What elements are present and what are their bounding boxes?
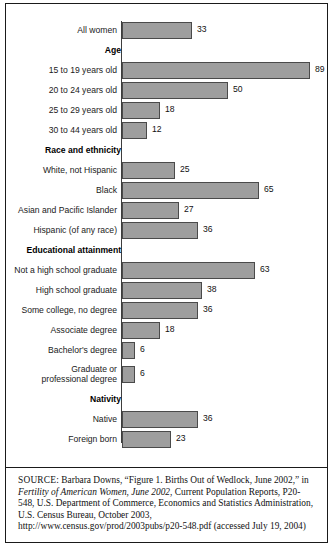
group-heading-label: Race and ethnicity — [5, 145, 121, 155]
bar — [122, 431, 171, 448]
bar-value-label: 36 — [203, 224, 213, 235]
source-label: SOURCE: — [18, 475, 59, 485]
bar — [122, 62, 310, 79]
group-heading-label: Age — [5, 45, 121, 55]
chart-group-heading: Nativity — [6, 390, 327, 410]
bar-value-label: 89 — [315, 64, 325, 75]
chart-bar-row: Black65 — [6, 181, 327, 201]
bar-value-label: 23 — [176, 433, 186, 444]
chart-bar-row: 25 to 29 years old18 — [6, 101, 327, 121]
chart-bar-row: Foreign born23 — [6, 430, 327, 450]
bar-value-label: 38 — [207, 284, 217, 295]
bar — [122, 182, 259, 199]
bar — [122, 162, 175, 179]
chart-rows: All women33Age15 to 19 years old8920 to … — [6, 21, 327, 450]
source-note: SOURCE: Barbara Downs, “Figure 1. Births… — [6, 468, 327, 542]
bar — [122, 202, 179, 219]
chart-bar-row: 15 to 19 years old89 — [6, 61, 327, 81]
chart-bar-row: Bachelor's degree6 — [6, 341, 327, 361]
bar-value-label: 63 — [260, 264, 270, 275]
bar — [122, 342, 135, 359]
bar — [122, 122, 147, 139]
chart-bar-row: Graduate or professional degree6 — [6, 361, 327, 390]
bar-value-label: 36 — [203, 304, 213, 315]
bar-value-label: 18 — [165, 104, 175, 115]
source-title-italic: Fertility of American Women, June 2002 — [18, 487, 170, 497]
bar-value-label: 12 — [152, 124, 162, 135]
bar-category-label: Some college, no degree — [5, 301, 117, 315]
bar-category-label: Hispanic (of any race) — [5, 221, 117, 235]
group-heading-label: Educational attainment — [5, 245, 121, 255]
bar-value-label: 65 — [264, 184, 274, 195]
bar-category-label: 30 to 44 years old — [5, 121, 117, 135]
chart-group-heading: Age — [6, 41, 327, 61]
bar-category-label: 15 to 19 years old — [5, 61, 117, 75]
bar — [122, 302, 198, 319]
bar-category-label: 20 to 24 years old — [5, 81, 117, 95]
chart-bar-row: White, not Hispanic25 — [6, 161, 327, 181]
chart-bar-row: Some college, no degree36 — [6, 301, 327, 321]
bar-category-label: Foreign born — [5, 430, 117, 444]
chart-bar-row: Not a high school graduate63 — [6, 261, 327, 281]
figure-frame: All women33Age15 to 19 years old8920 to … — [5, 3, 328, 543]
bar-category-label: Native — [5, 410, 117, 424]
bar-value-label: 50 — [233, 84, 243, 95]
bar — [122, 102, 160, 119]
chart-bar-row: High school graduate38 — [6, 281, 327, 301]
bar-category-label: White, not Hispanic — [5, 161, 117, 175]
chart-bar-row: 30 to 44 years old12 — [6, 121, 327, 141]
chart-bar-row: All women33 — [6, 21, 327, 41]
bar-value-label: 18 — [165, 324, 175, 335]
bar — [122, 366, 135, 383]
bar-category-label: Asian and Pacific Islander — [5, 201, 117, 215]
bar-value-label: 36 — [203, 413, 213, 424]
bar-category-label: Not a high school graduate — [5, 261, 117, 275]
chart-group-heading: Educational attainment — [6, 241, 327, 261]
chart-group-heading: Race and ethnicity — [6, 141, 327, 161]
bar — [122, 262, 255, 279]
group-heading-label: Nativity — [5, 394, 121, 404]
source-text: Barbara Downs, “Figure 1. Births Out of … — [59, 475, 309, 485]
chart-bar-row: Native36 — [6, 410, 327, 430]
bar-chart: All women33Age15 to 19 years old8920 to … — [6, 4, 327, 467]
chart-bar-row: 20 to 24 years old50 — [6, 81, 327, 101]
bar-category-label: High school graduate — [5, 281, 117, 295]
bar — [122, 411, 198, 428]
bar-value-label: 6 — [140, 344, 145, 355]
bar-value-label: 6 — [140, 368, 145, 379]
bar — [122, 282, 202, 299]
bar — [122, 82, 228, 99]
bar-category-label: 25 to 29 years old — [5, 101, 117, 115]
chart-bar-row: Associate degree18 — [6, 321, 327, 341]
chart-bar-row: Asian and Pacific Islander27 — [6, 201, 327, 221]
bar-category-label: Bachelor's degree — [5, 341, 117, 355]
bar-value-label: 33 — [197, 24, 207, 35]
bar-category-label: All women — [5, 21, 117, 35]
bar-value-label: 27 — [184, 204, 194, 215]
bar-category-label: Black — [5, 181, 117, 195]
bar-category-label: Associate degree — [5, 321, 117, 335]
bar-category-label: Graduate or professional degree — [5, 361, 117, 384]
bar — [122, 322, 160, 339]
chart-bar-row: Hispanic (of any race)36 — [6, 221, 327, 241]
bar-value-label: 25 — [180, 164, 190, 175]
bar — [122, 222, 198, 239]
bar — [122, 22, 192, 39]
